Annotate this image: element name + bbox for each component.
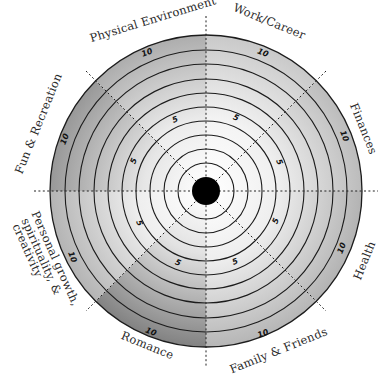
center-dot bbox=[192, 177, 220, 205]
wheel-of-life-diagram: 5 5 5 5 5 5 5 5 10 10 10 10 10 10 10 10 … bbox=[0, 0, 387, 379]
label-work-career: Work/Career bbox=[231, 0, 308, 42]
label-health: Health bbox=[350, 239, 378, 282]
